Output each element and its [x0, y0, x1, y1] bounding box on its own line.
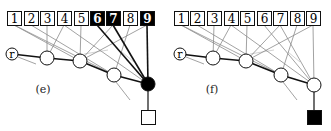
variable-box-1: 1: [175, 12, 189, 26]
box-label: 9: [143, 12, 151, 26]
box-label: 5: [78, 12, 86, 26]
chain-node-2: [73, 54, 87, 68]
chain-node-3: [107, 68, 121, 82]
dangling-edge: [283, 82, 297, 100]
variable-box-3: 3: [41, 12, 55, 26]
thick-edge: [97, 25, 148, 84]
chain-node-4: [307, 78, 321, 92]
box-label: 8: [127, 12, 135, 26]
variable-box-9: 9: [307, 12, 321, 26]
root-label: r: [177, 48, 183, 61]
variable-box-2: 2: [191, 12, 205, 26]
chain-node-1: [40, 51, 54, 65]
box-label: 4: [228, 12, 236, 26]
dangling-edge: [186, 57, 204, 64]
box-label: 2: [194, 12, 202, 26]
variable-box-6: 6: [258, 12, 272, 26]
box-label: 1: [11, 12, 19, 26]
box-label: 7: [277, 12, 285, 26]
box-label: 7: [109, 12, 117, 26]
thin-edge: [197, 25, 281, 75]
panel-f: 123456789r(f): [174, 12, 322, 125]
root-label: r: [9, 48, 15, 61]
box-label: 8: [294, 12, 302, 26]
variable-box-7: 7: [274, 12, 288, 26]
root-node: r: [174, 48, 186, 61]
box-label: 3: [44, 12, 52, 26]
box-label: 9: [310, 12, 318, 26]
thin-edge: [31, 25, 114, 75]
variable-box-8: 8: [124, 12, 138, 26]
box-label: 6: [261, 12, 269, 26]
panel-caption: (f): [206, 83, 219, 96]
variable-box-6: 6: [91, 12, 105, 26]
variable-box-5: 5: [241, 12, 255, 26]
dangling-edge: [116, 82, 130, 100]
thin-edge: [313, 25, 314, 85]
variable-box-4: 4: [225, 12, 239, 26]
dangling-edge: [18, 57, 36, 64]
variable-box-2: 2: [25, 12, 39, 26]
box-label: 6: [93, 12, 101, 26]
box-label: 5: [244, 12, 252, 26]
box-label: 3: [211, 12, 219, 26]
variable-box-7: 7: [107, 12, 121, 26]
box-label: 4: [61, 12, 69, 26]
variable-box-3: 3: [208, 12, 222, 26]
chain-node-3: [274, 68, 288, 82]
output-node: [142, 111, 156, 125]
chain-node-4: [141, 77, 155, 91]
box-label: 2: [28, 12, 36, 26]
variable-box-9: 9: [141, 12, 155, 26]
box-label: 1: [178, 12, 186, 26]
variable-box-5: 5: [75, 12, 89, 26]
variable-box-1: 1: [8, 12, 22, 26]
output-node: [308, 111, 322, 125]
panel-e: 123456789r(e): [6, 12, 156, 125]
thick-edge: [147, 25, 148, 84]
chain-node-1: [206, 51, 220, 65]
diagram-figure: 123456789r(e)123456789r(f): [0, 0, 331, 131]
variable-box-4: 4: [58, 12, 72, 26]
panel-caption: (e): [35, 83, 50, 96]
variable-box-8: 8: [291, 12, 305, 26]
chain-node-2: [239, 54, 253, 68]
bayesian-network-diagram: 123456789r(e)123456789r(f): [0, 0, 331, 131]
root-node: r: [6, 48, 18, 61]
